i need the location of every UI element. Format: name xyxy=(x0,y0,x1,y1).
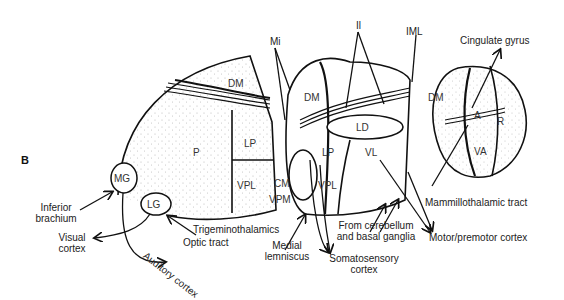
label-va: VA xyxy=(474,146,487,157)
label-lp-middle: LP xyxy=(322,147,334,158)
label-optic-tract: Optic tract xyxy=(183,237,229,248)
label-il: Il xyxy=(356,20,361,31)
label-p: P xyxy=(193,147,200,158)
label-visual-cortex: Visual cortex xyxy=(52,232,92,254)
label-lg: LG xyxy=(147,199,160,210)
label-mammillothalamic-tract: Mammillothalamic tract xyxy=(425,197,527,208)
label-iml: IML xyxy=(406,26,423,37)
label-r: R xyxy=(497,116,504,127)
label-cingulate-gyrus: Cingulate gyrus xyxy=(460,35,529,46)
label-a: A xyxy=(474,110,481,121)
label-mg: MG xyxy=(114,173,130,184)
label-medial-lemniscus: Medial lemniscus xyxy=(262,240,312,262)
label-somatosensory-cortex: Somatosensory cortex xyxy=(322,253,406,275)
label-dm-middle: DM xyxy=(304,92,320,103)
label-mi: Mi xyxy=(270,36,281,47)
label-inferior-brachium: Inferior brachium xyxy=(30,202,82,224)
label-vpl-left: VPL xyxy=(237,180,256,191)
label-vpl-middle: VPL xyxy=(318,180,337,191)
label-trigeminothalamics: Trigeminothalamics xyxy=(193,224,279,235)
middle-thalamus-block xyxy=(286,58,410,215)
label-vl: VL xyxy=(365,147,377,158)
label-lp-left: LP xyxy=(244,138,256,149)
label-ld: LD xyxy=(356,122,369,133)
label-dm-right: DM xyxy=(428,92,444,103)
panel-label: B xyxy=(21,155,29,166)
label-dm-left: DM xyxy=(228,78,244,89)
label-cm: CM xyxy=(274,178,290,189)
label-motor-premotor-cortex: Motor/premotor cortex xyxy=(429,232,527,243)
label-vpm: VPM xyxy=(269,194,291,205)
label-from-cerebellum: From cerebellum and basal ganglia xyxy=(330,220,422,242)
